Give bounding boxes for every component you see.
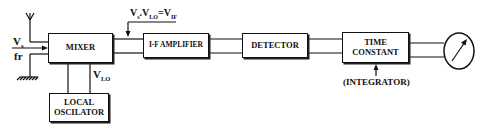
radiometer-block-diagram: Vs fr MIXER VLO LOCAL OSCILATOR Vs.VLO=V… — [0, 0, 488, 129]
local-oscillator-block: LOCAL OSCILATOR — [49, 93, 109, 122]
vlo-label: VLO — [93, 69, 110, 83]
signal-input-label: Vs — [13, 36, 24, 50]
mixer-block: MIXER — [48, 33, 113, 63]
time-constant-block: TIME CONSTANT — [342, 32, 409, 63]
if-amplifier-block: I-F AMPLIFIER — [143, 33, 209, 58]
integrator-label: (INTEGRATOR) — [343, 78, 410, 87]
antenna-icon — [26, 13, 48, 42]
frequency-input-label: fr — [14, 51, 23, 62]
mixer-output-formula: Vs.VLO=VIF — [130, 8, 177, 20]
meter-icon — [444, 33, 474, 69]
detector-block: DETECTOR — [242, 33, 308, 58]
